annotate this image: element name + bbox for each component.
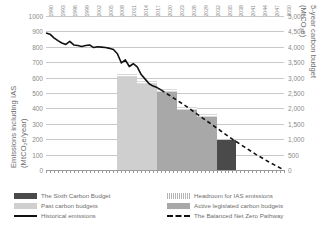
chart-legend: The Sixth Carbon Budget Headroom for IAS…: [14, 192, 320, 222]
y-tick-label-left: 600: [32, 74, 43, 81]
y-tick-label-left: 400: [32, 105, 43, 112]
x-tick-mark: [129, 170, 130, 173]
x-tick-mark: [74, 170, 75, 173]
x-tick-mark: [181, 170, 182, 173]
x-tick-mark: [113, 170, 114, 173]
x-tick-label: 2020: [167, 5, 173, 17]
x-tick-mark: [66, 170, 67, 173]
x-tick-mark: [125, 170, 126, 173]
y-tick-label-left: 100: [32, 151, 43, 158]
x-tick-mark: [260, 170, 261, 173]
x-tick-mark: [109, 170, 110, 173]
x-tick-mark: [94, 170, 95, 173]
x-tick-mark: [248, 170, 249, 173]
x-tick-mark: [264, 170, 265, 173]
chart-figure: Emissions including IAS (MtCO₂e/year) 5-…: [0, 0, 328, 235]
y-tick-label-left: 1000: [29, 13, 43, 20]
y-tick-label-right: 500: [288, 151, 299, 158]
x-tick-mark: [82, 170, 83, 173]
x-tick-mark: [228, 170, 229, 173]
x-tick-mark: [58, 170, 59, 173]
x-tick-mark: [46, 170, 47, 173]
legend-swatch-headroom-icon: [167, 193, 190, 199]
x-tick-label: 2008: [119, 5, 125, 17]
x-tick-mark: [141, 170, 142, 173]
y-tick-label-right: 4,000: [288, 43, 304, 50]
x-tick-mark: [177, 170, 178, 173]
x-tick-mark: [173, 170, 174, 173]
x-tick-mark: [205, 170, 206, 173]
x-tick-label: 2041: [250, 5, 256, 17]
x-tick-mark: [201, 170, 202, 173]
x-tick-mark: [161, 170, 162, 173]
x-tick-label: 2038: [238, 5, 244, 17]
legend-label-past: Past carbon budgets: [41, 202, 98, 209]
y-tick-label-left: 200: [32, 136, 43, 143]
x-tick-label: 2026: [191, 5, 197, 17]
x-tick-mark: [165, 170, 166, 173]
y-tick-label-right: 3,500: [288, 59, 304, 66]
x-tick-mark: [50, 170, 51, 173]
x-tick-mark: [193, 170, 194, 173]
balanced-net-zero-pathway-line: [161, 90, 284, 170]
x-tick-mark: [121, 170, 122, 173]
y-tick-label-right: 1,500: [288, 120, 304, 127]
x-tick-mark: [252, 170, 253, 173]
x-tick-mark: [70, 170, 71, 173]
x-axis: [46, 170, 284, 171]
x-tick-mark: [225, 170, 226, 173]
x-tick-label: 1990: [48, 5, 54, 17]
x-tick-mark: [62, 170, 63, 173]
legend-swatch-active-icon: [167, 203, 190, 209]
legend-label-headroom: Headroom for IAS emissions: [194, 192, 273, 199]
legend-item-active-budgets: Active legislated carbon budgets: [167, 202, 320, 209]
y-tick-label-right: 2,500: [288, 90, 304, 97]
legend-row: The Sixth Carbon Budget Headroom for IAS…: [14, 192, 320, 199]
x-tick-mark: [106, 170, 107, 173]
legend-item-headroom: Headroom for IAS emissions: [167, 192, 320, 199]
legend-label-historical: Historical emissions: [41, 212, 96, 219]
x-tick-mark: [268, 170, 269, 173]
x-tick-mark: [217, 170, 218, 173]
x-tick-label: 1996: [72, 5, 78, 17]
x-tick-mark: [272, 170, 273, 173]
plot-area: 01002003004005006007008009001000 05001,0…: [46, 16, 284, 170]
x-tick-label: 2044: [262, 5, 268, 17]
x-tick-mark: [157, 170, 158, 173]
x-tick-mark: [280, 170, 281, 173]
x-tick-mark: [209, 170, 210, 173]
x-tick-label: 2011: [131, 5, 137, 16]
y-tick-label-right: 0: [288, 167, 292, 174]
y-tick-label-left: 500: [32, 90, 43, 97]
y-tick-label-left: 300: [32, 120, 43, 127]
x-tick-mark: [149, 170, 150, 173]
y-tick-label-left: 800: [32, 43, 43, 50]
y-tick-label-right: 2,000: [288, 105, 304, 112]
x-tick-mark: [98, 170, 99, 173]
y-tick-label-left: 900: [32, 28, 43, 35]
x-tick-mark: [137, 170, 138, 173]
x-tick-label: 2032: [215, 5, 221, 17]
legend-row: Past carbon budgets Active legislated ca…: [14, 202, 320, 209]
x-tick-mark: [153, 170, 154, 173]
x-tick-mark: [54, 170, 55, 173]
legend-label-pathway: The Balanced Net Zero Pathway: [194, 212, 283, 219]
x-tick-mark: [284, 170, 285, 173]
x-tick-mark: [117, 170, 118, 173]
x-tick-label: 2002: [96, 5, 102, 17]
legend-item-sixth-carbon-budget: The Sixth Carbon Budget: [14, 192, 167, 199]
y-tick-label-right: 3,000: [288, 74, 304, 81]
x-tick-label: 2014: [143, 5, 149, 17]
x-tick-mark: [232, 170, 233, 173]
x-tick-mark: [213, 170, 214, 173]
x-tick-mark: [133, 170, 134, 173]
x-tick-label: 2005: [108, 5, 114, 17]
y-axis-left-title: Emissions including IAS: [9, 86, 18, 168]
legend-label-active: Active legislated carbon budgets: [194, 202, 283, 209]
legend-swatch-historical-line-icon: [14, 215, 37, 217]
y-axis-right-title: 5-year carbon budget: [309, 5, 318, 78]
x-tick-mark: [236, 170, 237, 173]
x-tick-label: 2017: [155, 5, 161, 17]
y-tick-label-left: 700: [32, 59, 43, 66]
x-tick-mark: [244, 170, 245, 173]
